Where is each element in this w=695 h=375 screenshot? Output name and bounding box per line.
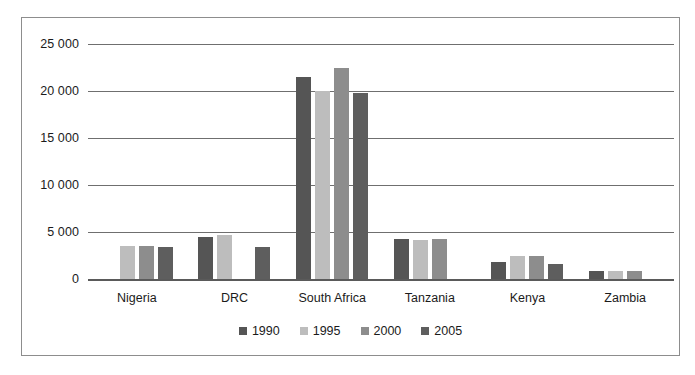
- bar: [510, 256, 525, 279]
- bar: [217, 235, 232, 279]
- bar: [315, 91, 330, 279]
- bar: [120, 246, 135, 279]
- x-axis-tick-label: Zambia: [604, 291, 646, 305]
- bar: [139, 246, 154, 279]
- bar: [589, 271, 604, 279]
- bar: [353, 93, 368, 279]
- legend-swatch-icon: [300, 327, 308, 335]
- y-axis-tick-label: 0: [72, 272, 79, 286]
- chart-legend: 1990199520002005: [22, 324, 679, 338]
- bar: [296, 77, 311, 279]
- chart-frame: 05 00010 00015 00020 00025 000 NigeriaDR…: [21, 17, 680, 356]
- bar-group: [88, 44, 186, 279]
- bar-group: [186, 44, 284, 279]
- bar: [158, 247, 173, 279]
- bar: [255, 247, 270, 279]
- bar: [491, 262, 506, 279]
- y-axis-tick-label: 25 000: [40, 37, 79, 51]
- bar: [608, 271, 623, 279]
- bar: [198, 237, 213, 279]
- legend-item: 2005: [421, 324, 462, 338]
- bar: [548, 264, 563, 279]
- bar: [394, 239, 409, 279]
- bar-group: [576, 44, 674, 279]
- axis-baseline: [88, 279, 674, 281]
- y-axis-tick-label: 20 000: [40, 84, 79, 98]
- legend-label: 2000: [374, 324, 402, 338]
- y-axis-tick-label: 5 000: [47, 225, 79, 239]
- legend-swatch-icon: [361, 327, 369, 335]
- plot-area: 05 00010 00015 00020 00025 000 NigeriaDR…: [88, 44, 674, 279]
- y-axis-tick-label: 15 000: [40, 131, 79, 145]
- legend-swatch-icon: [421, 327, 429, 335]
- legend-label: 1990: [252, 324, 280, 338]
- legend-item: 1990: [239, 324, 280, 338]
- bar-group: [283, 44, 381, 279]
- legend-item: 1995: [300, 324, 341, 338]
- bar: [334, 68, 349, 279]
- x-axis-tick-label: DRC: [221, 291, 248, 305]
- legend-label: 1995: [313, 324, 341, 338]
- bar-group: [381, 44, 479, 279]
- x-axis-tick-label: Kenya: [510, 291, 545, 305]
- x-axis-tick-label: Nigeria: [117, 291, 157, 305]
- bar-series-container: [88, 44, 674, 279]
- legend-swatch-icon: [239, 327, 247, 335]
- bar: [432, 239, 447, 279]
- legend-label: 2005: [434, 324, 462, 338]
- bar: [413, 240, 428, 279]
- x-axis-tick-label: Tanzania: [405, 291, 455, 305]
- y-axis-tick-label: 10 000: [40, 178, 79, 192]
- legend-item: 2000: [361, 324, 402, 338]
- bar-group: [479, 44, 577, 279]
- x-axis-tick-label: South Africa: [298, 291, 365, 305]
- bar: [529, 256, 544, 279]
- bar: [627, 271, 642, 279]
